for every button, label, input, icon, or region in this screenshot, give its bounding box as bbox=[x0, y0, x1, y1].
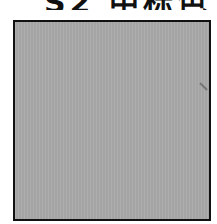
color-label-title: S2 中标色 bbox=[44, 0, 211, 10]
scratch-mark bbox=[199, 82, 207, 90]
color-swatch bbox=[13, 20, 211, 221]
header-clipped: S2 中标色 bbox=[0, 0, 217, 10]
